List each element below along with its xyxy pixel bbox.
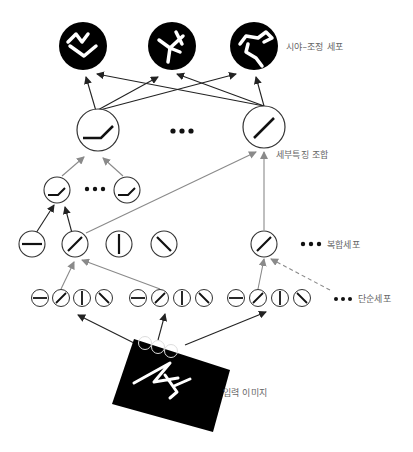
diagram-canvas xyxy=(0,0,413,452)
complex-cell-horizontal xyxy=(19,231,45,257)
simple-cells-group-1 xyxy=(32,290,113,307)
feature-low-to-top-arrows xyxy=(62,157,123,176)
view-tuned-cell-3 xyxy=(230,22,278,70)
feature-combo-low-1 xyxy=(44,177,70,203)
complex-cell-vertical xyxy=(106,231,132,257)
input-image xyxy=(112,337,230,433)
simple-cells-group-3 xyxy=(228,290,311,307)
ellipsis-complex xyxy=(301,242,321,246)
ellipsis-simple xyxy=(334,297,352,301)
simple-cells-group-2 xyxy=(130,290,213,307)
label-input-image: 입력 이미지 xyxy=(223,386,267,399)
feature-combo-low-2 xyxy=(114,177,140,203)
feature-combo-top-1 xyxy=(77,109,119,151)
feature-combo-top-2 xyxy=(243,106,285,148)
ellipsis-top xyxy=(170,128,193,133)
feature-to-view-arrows xyxy=(86,74,264,111)
complex-cell-diagonal xyxy=(62,231,88,257)
input-to-simple-arrows xyxy=(78,312,266,345)
complex-cell-backslash xyxy=(151,231,177,257)
ellipsis-low xyxy=(85,187,105,191)
label-feature-combination: 세부특징 조합 xyxy=(276,148,328,161)
view-tuned-cell-1 xyxy=(59,22,107,70)
simple-to-complex-arrows xyxy=(61,259,330,290)
label-view-tuned-cells: 시야–조정 세포 xyxy=(286,40,343,53)
label-simple-cells: 단순세포 xyxy=(358,292,391,305)
label-complex-cells: 복합세포 xyxy=(327,238,360,251)
complex-cell-diagonal-2 xyxy=(251,231,277,257)
view-tuned-cell-2 xyxy=(148,22,196,70)
